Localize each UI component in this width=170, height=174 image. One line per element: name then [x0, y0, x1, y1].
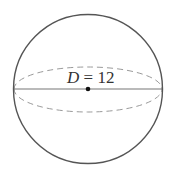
sphere-svg: D = 12: [0, 0, 170, 174]
diameter-label: D = 12: [66, 68, 114, 87]
equator-front-dashed: [14, 89, 162, 112]
center-point: [86, 87, 91, 92]
equals-sign: =: [79, 68, 97, 87]
diameter-variable: D: [66, 68, 80, 87]
diameter-value: 12: [97, 68, 114, 87]
sphere-diagram: D = 12: [0, 0, 170, 174]
